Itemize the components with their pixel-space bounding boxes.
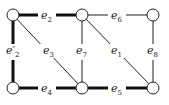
node-bottom-left: [7, 82, 19, 94]
node-top-middle: [76, 9, 88, 21]
node-top-left: [7, 9, 19, 21]
node-bottom-middle: [76, 82, 88, 94]
node-top-right: [147, 9, 159, 21]
node-bottom-right: [147, 82, 159, 94]
graph-diagram: e2 e6 e′2 e3 e7 e1 e8 e4 e5: [0, 0, 169, 105]
